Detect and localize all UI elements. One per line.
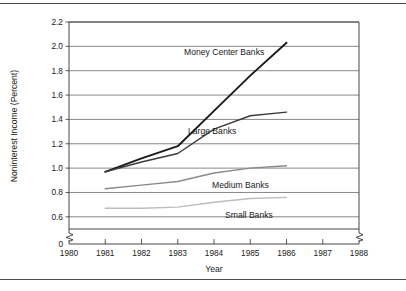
series-label-1: Large Banks xyxy=(188,126,236,136)
y-tick-label: 0.8 xyxy=(51,187,63,197)
x-tick-label: 1980 xyxy=(60,248,79,258)
x-tick-label: 1984 xyxy=(205,248,224,258)
y-axis-title: Noninterest Income (Percent) xyxy=(9,70,19,182)
x-tick-label: 1983 xyxy=(169,248,188,258)
x-tick-label: 1985 xyxy=(241,248,260,258)
series-label-3: Small Banks xyxy=(225,210,273,220)
top-rule xyxy=(0,3,406,4)
x-tick-label: 1987 xyxy=(314,248,333,258)
y-tick-label: 1.6 xyxy=(51,90,63,100)
y-axis-break-icon xyxy=(66,233,73,241)
x-axis: 198019811982198319841985198619871988 xyxy=(60,239,369,258)
line-chart: 2.22.01.81.61.41.21.00.80.60 19801981198… xyxy=(0,0,406,291)
y-tick-label: 1.8 xyxy=(51,66,63,76)
x-tick-label: 1988 xyxy=(350,248,369,258)
y-tick-label: 1.2 xyxy=(51,139,63,149)
x-axis-title: Year xyxy=(205,264,223,274)
y-tick-label: 0.6 xyxy=(51,212,63,222)
y-tick-label: 1.4 xyxy=(51,114,63,124)
y-tick-label: 2.2 xyxy=(51,17,63,27)
bottom-rule xyxy=(0,279,406,280)
x-tick-label: 1986 xyxy=(277,248,296,258)
axis-break-group xyxy=(66,233,363,241)
series-label-2: Medium Banks xyxy=(212,180,269,190)
y-tick-label: 1.0 xyxy=(51,163,63,173)
x-axis-break-icon xyxy=(356,233,363,241)
x-tick-label: 1981 xyxy=(96,248,115,258)
x-tick-label: 1982 xyxy=(132,248,151,258)
y-tick-label: 2.0 xyxy=(51,41,63,51)
figure-container: 2.22.01.81.61.41.21.00.80.60 19801981198… xyxy=(0,0,406,291)
series-label-0: Money Center Banks xyxy=(184,47,264,57)
